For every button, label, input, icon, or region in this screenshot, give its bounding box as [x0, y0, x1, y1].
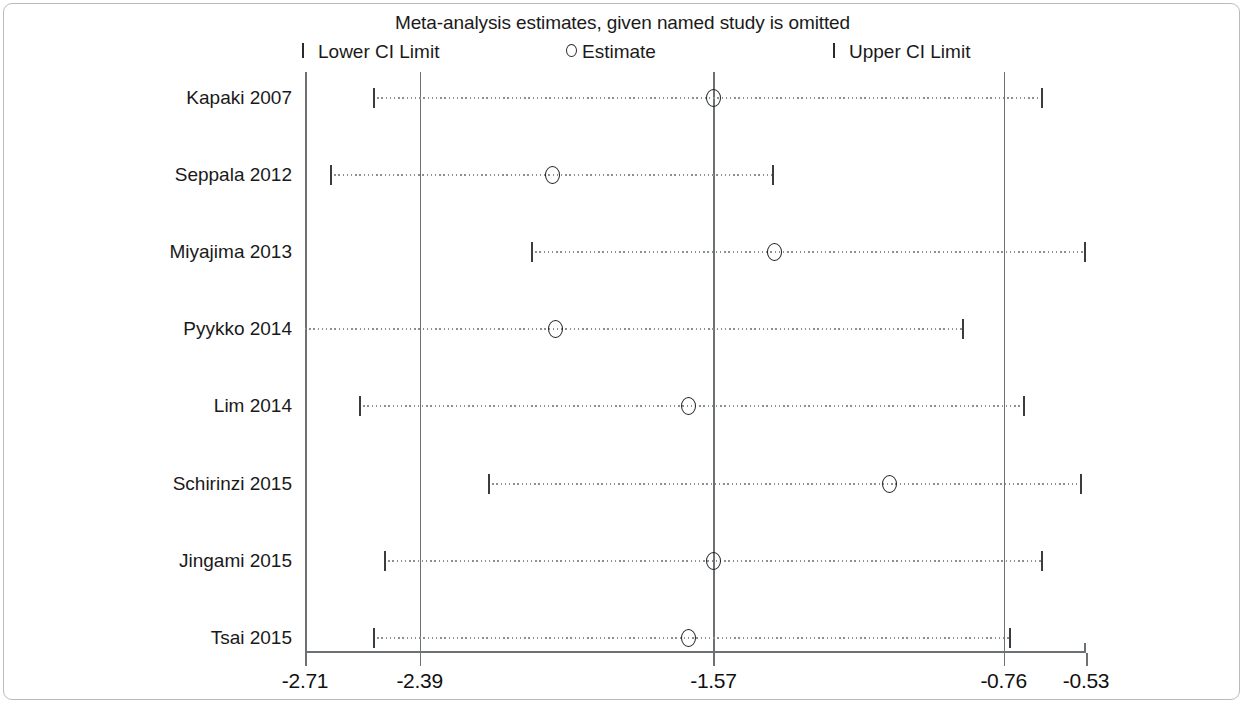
x-axis-tick-label: -2.39 — [396, 669, 442, 693]
estimate-marker — [882, 475, 897, 493]
confidence-interval-line — [488, 483, 1083, 485]
upper-ci-cap — [1041, 88, 1043, 108]
x-axis-tick-label: -2.71 — [282, 669, 328, 693]
y-axis-label: Tsai 2015 — [12, 627, 292, 649]
estimate-marker — [545, 166, 560, 184]
y-axis-label: Seppala 2012 — [12, 164, 292, 186]
lower-ci-cap — [359, 396, 361, 416]
x-axis-tick-mark — [1004, 653, 1006, 666]
lower-ci-cap — [488, 474, 490, 494]
confidence-interval-line — [531, 251, 1086, 253]
upper-ci-cap — [962, 319, 964, 339]
lower-ci-cap — [373, 628, 375, 648]
estimate-marker — [681, 397, 696, 415]
plot-area — [305, 72, 1086, 653]
influence-plot-figure: Meta-analysis estimates, given named stu… — [0, 0, 1245, 705]
x-axis-tick-label: -0.76 — [980, 669, 1026, 693]
ci-limit-tick-icon — [302, 43, 304, 58]
upper-ci-cap — [1041, 551, 1043, 571]
ci-limit-tick-icon — [833, 43, 835, 58]
y-axis-label: Jingami 2015 — [12, 550, 292, 572]
y-axis-line — [305, 72, 307, 653]
x-axis-right-end-tick — [1084, 643, 1086, 653]
y-axis-study-labels: Kapaki 2007Seppala 2012Miyajima 2013Pyyk… — [0, 0, 292, 705]
estimate-marker — [706, 552, 721, 570]
x-axis-tick-mark — [713, 653, 715, 666]
y-axis-label: Miyajima 2013 — [12, 241, 292, 263]
estimate-marker — [681, 629, 696, 647]
lower-ci-cap — [531, 242, 533, 262]
estimate-marker — [548, 320, 563, 338]
lower-ci-cap — [373, 88, 375, 108]
y-axis-label: Schirinzi 2015 — [12, 473, 292, 495]
lower-ci-cap — [330, 165, 332, 185]
x-axis-tick-mark — [1086, 653, 1088, 666]
upper-ci-cap — [1009, 628, 1011, 648]
upper-ci-cap — [1023, 396, 1025, 416]
lower-ci-cap — [384, 551, 386, 571]
upper-ci-cap — [772, 165, 774, 185]
y-axis-label: Kapaki 2007 — [12, 87, 292, 109]
x-axis-tick-mark — [305, 653, 307, 666]
x-axis-ticks: -2.71-2.39-1.57-0.76-0.53 — [0, 653, 1245, 705]
y-axis-label: Lim 2014 — [12, 395, 292, 417]
x-axis-tick-label: -1.57 — [690, 669, 736, 693]
x-axis-tick-mark — [420, 653, 422, 666]
y-axis-label: Pyykko 2014 — [12, 318, 292, 340]
reference-line-pooled-upper-ci — [1004, 72, 1006, 653]
upper-ci-cap — [1080, 474, 1082, 494]
legend-label-lower-ci-limit: Lower CI Limit — [318, 41, 439, 63]
estimate-marker — [767, 243, 782, 261]
estimate-circle-icon — [566, 44, 577, 57]
legend-label-upper-ci-limit: Upper CI Limit — [849, 41, 970, 63]
confidence-interval-line — [305, 328, 964, 330]
upper-ci-cap — [1084, 242, 1086, 262]
reference-line-pooled-lower-ci — [420, 72, 422, 653]
estimate-marker — [706, 89, 721, 107]
legend-label-estimate: Estimate — [582, 41, 656, 63]
x-axis-tick-label: -0.53 — [1063, 669, 1109, 693]
